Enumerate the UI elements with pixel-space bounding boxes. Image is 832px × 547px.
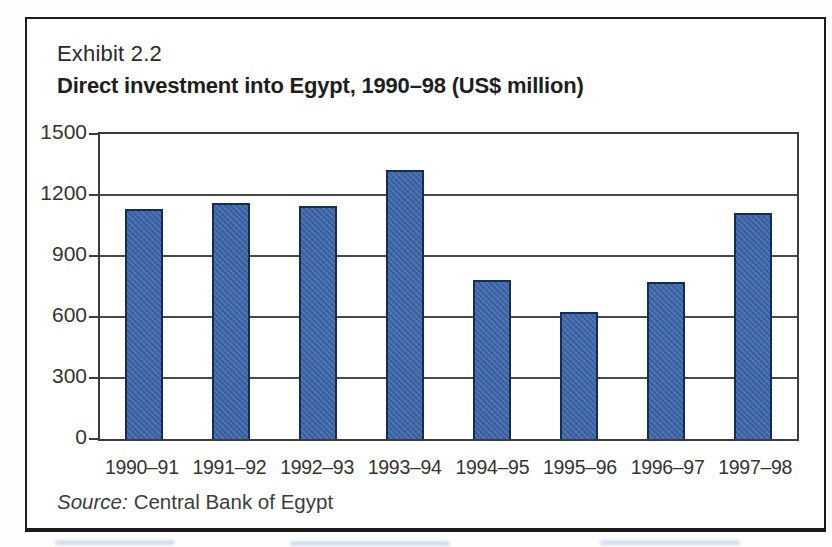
source-text: Central Bank of Egypt — [134, 490, 333, 513]
y-tick-300 — [89, 377, 100, 379]
source-prefix: Source: — [57, 490, 128, 513]
gridline-300 — [100, 377, 797, 379]
bar-1994–95 — [473, 280, 511, 439]
x-tick-label-1995–96: 1995–96 — [536, 456, 624, 479]
x-tick-label-1997–98: 1997–98 — [711, 456, 799, 479]
x-tick-label-1996–97: 1996–97 — [624, 456, 712, 479]
scan-smudge — [290, 541, 450, 546]
bar-1996–97 — [647, 282, 685, 439]
bar-1997–98 — [734, 213, 772, 439]
x-tick-label-1990–91: 1990–91 — [98, 456, 186, 479]
y-tick-label-300: 300 — [27, 364, 87, 388]
y-tick-0 — [89, 438, 100, 440]
y-tick-900 — [89, 255, 100, 257]
gridline-900 — [100, 255, 797, 257]
x-tick-label-1992–93: 1992–93 — [273, 456, 361, 479]
y-tick-label-600: 600 — [27, 303, 87, 327]
y-tick-1500 — [89, 133, 100, 135]
bar-1992–93 — [299, 206, 337, 439]
y-tick-label-1500: 1500 — [27, 120, 87, 144]
y-tick-label-900: 900 — [27, 242, 87, 266]
bar-1993–94 — [386, 170, 424, 439]
bar-1990–91 — [125, 209, 163, 439]
bar-chart: 030060090012001500 1990–911991–921992–93… — [27, 19, 824, 528]
scan-smudge — [55, 540, 175, 545]
source-note: Source:Central Bank of Egypt — [57, 490, 333, 514]
gridline-600 — [100, 316, 797, 318]
x-tick-label-1993–94: 1993–94 — [361, 456, 449, 479]
exhibit-box: Exhibit 2.2 Direct investment into Egypt… — [25, 17, 826, 532]
page-background: Exhibit 2.2 Direct investment into Egypt… — [0, 0, 832, 547]
bar-1991–92 — [212, 203, 250, 439]
x-tick-label-1994–95: 1994–95 — [449, 456, 537, 479]
y-tick-label-1200: 1200 — [27, 181, 87, 205]
x-tick-label-1991–92: 1991–92 — [186, 456, 274, 479]
y-tick-1200 — [89, 194, 100, 196]
gridline-1200 — [100, 194, 797, 196]
scan-smudge — [600, 540, 740, 545]
y-tick-label-0: 0 — [27, 425, 87, 449]
plot-area — [98, 132, 799, 441]
x-axis-labels: 1990–911991–921992–931993–941994–951995–… — [98, 456, 799, 479]
y-tick-600 — [89, 316, 100, 318]
bar-1995–96 — [560, 312, 598, 439]
